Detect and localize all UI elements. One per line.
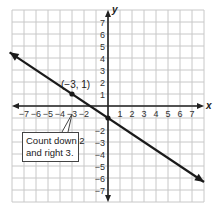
plotted-point [69, 91, 74, 96]
svg-text:−5: −5 [43, 109, 53, 119]
svg-text:4: 4 [153, 109, 158, 119]
point-label: (−3, 1) [61, 79, 90, 90]
svg-text:4: 4 [100, 54, 105, 64]
coordinate-plane: −7−6−5−4−3−212345677654321−2−3−4−5−6−7 x… [0, 0, 214, 207]
svg-text:−6: −6 [95, 174, 105, 184]
svg-text:7: 7 [189, 109, 194, 119]
svg-text:−4: −4 [95, 150, 105, 160]
svg-text:5: 5 [165, 109, 170, 119]
svg-text:5: 5 [100, 42, 105, 52]
svg-text:−7: −7 [95, 186, 105, 196]
plotted-point [105, 115, 110, 120]
svg-text:−2: −2 [79, 109, 89, 119]
callout-box: Count down 2 and right 3. [22, 132, 79, 162]
y-axis-label: y [111, 4, 118, 15]
svg-text:−3: −3 [95, 138, 105, 148]
svg-text:−7: −7 [19, 109, 29, 119]
svg-text:−5: −5 [95, 162, 105, 172]
svg-text:3: 3 [100, 66, 105, 76]
svg-text:−2: −2 [95, 126, 105, 136]
svg-text:2: 2 [100, 78, 105, 88]
svg-text:−6: −6 [31, 109, 41, 119]
svg-text:1: 1 [100, 90, 105, 100]
svg-text:6: 6 [100, 30, 105, 40]
svg-text:2: 2 [129, 109, 134, 119]
svg-text:−4: −4 [55, 109, 65, 119]
callout-text-line2: and right 3. [26, 147, 78, 159]
svg-text:3: 3 [141, 109, 146, 119]
callout-text-line1: Count down 2 [26, 135, 78, 147]
x-axis-label: x [205, 100, 212, 111]
axes [12, 10, 204, 202]
svg-text:1: 1 [117, 109, 122, 119]
svg-text:6: 6 [177, 109, 182, 119]
svg-text:7: 7 [100, 18, 105, 28]
